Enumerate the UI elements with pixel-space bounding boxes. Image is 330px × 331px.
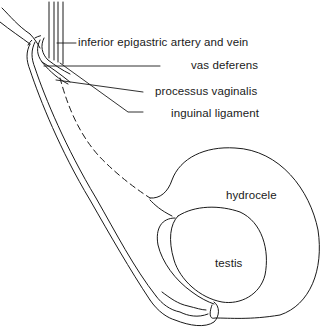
hydrocele-diagram — [0, 0, 330, 331]
label-hydrocele: hydrocele — [226, 190, 277, 202]
lower-scrotal-folds — [150, 292, 219, 326]
label-vas-deferens: vas deferens — [191, 60, 258, 72]
hydrocele-sac — [150, 148, 319, 319]
inferior-epigastric-vessels — [49, 2, 63, 64]
label-inguinal-ligament: inguinal ligament — [171, 108, 259, 120]
label-testis: testis — [215, 258, 242, 270]
processus-vaginalis-line — [60, 78, 150, 198]
leader-lines — [44, 43, 160, 112]
epididymis-inner — [150, 200, 172, 216]
epididymis — [157, 218, 214, 304]
testis-outline — [171, 207, 267, 302]
label-inferior-epigastric: inferior epigastric artery and vein — [78, 37, 248, 49]
label-processus-vaginalis: processus vaginalis — [155, 86, 257, 98]
spermatic-cord — [0, 8, 156, 300]
